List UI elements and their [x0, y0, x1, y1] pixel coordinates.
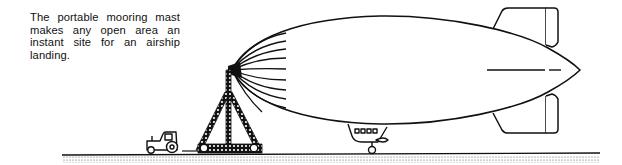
tractor-front-wheel — [148, 147, 154, 153]
gondola-landing-wheel — [369, 147, 376, 154]
ground — [62, 153, 600, 163]
gondola — [348, 124, 388, 154]
mast-wheel-left — [200, 144, 208, 152]
mast-wheel-right — [250, 144, 258, 152]
airship-mooring-illustration — [0, 0, 622, 165]
tractor — [147, 132, 178, 153]
gondola-propeller — [376, 138, 388, 142]
